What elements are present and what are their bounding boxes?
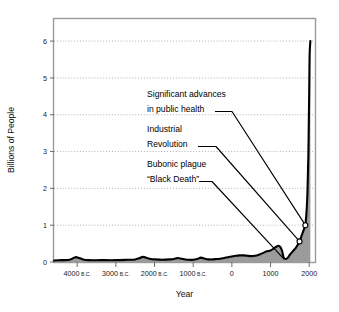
data-point-marker	[303, 223, 308, 228]
y-axis-title: Billions of People	[6, 107, 16, 173]
y-tick-label: 5	[43, 74, 47, 83]
x-tick-label: 0	[230, 269, 234, 278]
x-tick-label: 3000B.C.	[102, 269, 130, 278]
chart-canvas: 0123456 4000B.C.3000B.C.2000B.C.1000B.C.…	[0, 0, 339, 312]
x-tick-label: 4000B.C.	[63, 269, 91, 278]
x-tick-label: 1000	[263, 269, 279, 278]
y-tick-label: 1	[43, 221, 47, 230]
y-tick-label: 0	[43, 258, 47, 267]
x-axis-title: Year	[176, 289, 194, 299]
x-tick-label: 2000	[301, 269, 317, 278]
data-point-marker	[297, 239, 302, 244]
y-tick-label: 6	[43, 37, 47, 46]
y-tick-label: 3	[43, 147, 47, 156]
y-tick-label: 2	[43, 184, 47, 193]
y-tick-label: 4	[43, 110, 47, 119]
population-chart-figure: 0123456 4000B.C.3000B.C.2000B.C.1000B.C.…	[0, 0, 339, 312]
x-tick-label: 2000B.C.	[141, 269, 169, 278]
x-tick-label: 1000B.C.	[179, 269, 207, 278]
